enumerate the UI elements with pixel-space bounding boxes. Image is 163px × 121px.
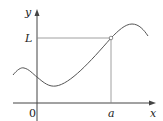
y-axis-arrow-icon	[35, 9, 40, 16]
limit-diagram: y x L 0 a	[0, 0, 163, 121]
origin-label: 0	[29, 107, 36, 120]
x-axis-label: x	[150, 107, 157, 120]
a-label: a	[108, 107, 115, 120]
point-a-L	[109, 36, 113, 40]
function-curve	[13, 24, 148, 86]
L-label: L	[24, 32, 32, 45]
y-axis-label: y	[24, 6, 32, 19]
x-axis-arrow-icon	[149, 101, 156, 106]
